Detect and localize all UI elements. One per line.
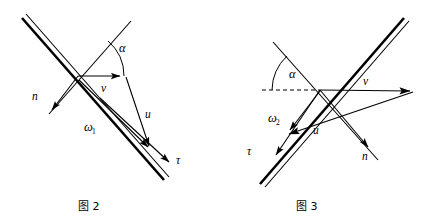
fig3-vector-n bbox=[320, 90, 368, 147]
fig3-label-u: u bbox=[313, 124, 319, 136]
fig2-label-u: u bbox=[145, 108, 151, 120]
fig3-label-omega2-subscript: 2 bbox=[276, 118, 280, 127]
fig2-label-omega1-subscript: 1 bbox=[92, 127, 96, 136]
fig2-vector-n bbox=[52, 76, 78, 110]
fig2-label-v: v bbox=[101, 82, 107, 94]
fig2-vector-tau bbox=[100, 98, 169, 162]
figure-2-group: α v u n ω 1 τ bbox=[22, 14, 181, 180]
fig2-label-n: n bbox=[32, 90, 38, 102]
figure-2-caption: 图 2 bbox=[78, 197, 100, 213]
fig3-label-alpha: α bbox=[289, 67, 296, 81]
fig3-label-tau: τ bbox=[247, 145, 252, 157]
fig3-alpha-arc bbox=[272, 56, 287, 90]
fig3-label-v: v bbox=[363, 75, 369, 87]
fig2-label-tau: τ bbox=[176, 154, 181, 166]
fig3-surface-line-thick bbox=[260, 18, 404, 184]
fig2-surface-line-thin bbox=[26, 14, 169, 177]
figure-3-caption: 图 3 bbox=[296, 197, 318, 213]
fig2-surface-line-thick bbox=[22, 18, 164, 180]
fig2-incident-line bbox=[49, 21, 131, 114]
diagram-canvas: α v u n ω 1 τ bbox=[0, 0, 429, 223]
figure-sheet: α v u n ω 1 τ bbox=[0, 0, 429, 223]
fig3-vector-v bbox=[320, 90, 410, 91]
fig2-label-alpha: α bbox=[119, 41, 126, 55]
fig3-label-n: n bbox=[362, 150, 368, 162]
fig3-incident-line bbox=[273, 42, 378, 160]
figure-3-group: α v u n ω 2 τ bbox=[247, 18, 413, 187]
fig3-surface-line-thin bbox=[265, 21, 409, 187]
fig3-vector-u bbox=[289, 92, 413, 134]
